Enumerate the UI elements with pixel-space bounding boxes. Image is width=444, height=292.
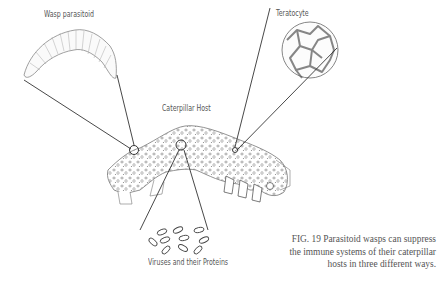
caption-line-1: FIG. 19 Parasitoid wasps can suppress — [236, 233, 436, 246]
wasp-parasitoid-label: Wasp parasitoid — [44, 10, 94, 19]
teratocyte-cell-icon — [282, 22, 338, 78]
viruses-label: Viruses and their Proteins — [148, 258, 228, 267]
teratocyte-label: Teratocyte — [276, 9, 309, 18]
figure-caption: FIG. 19 Parasitoid wasps can suppress th… — [236, 233, 436, 271]
caterpillar-host-icon — [107, 126, 290, 204]
caterpillar-host-label: Caterpillar Host — [162, 104, 211, 113]
wasp-larva-icon — [24, 30, 116, 79]
caption-line-3: hosts in three different ways. — [236, 258, 436, 271]
caption-line-2: the immune systems of their caterpillar — [236, 246, 436, 259]
virus-particles-icon — [148, 226, 210, 256]
